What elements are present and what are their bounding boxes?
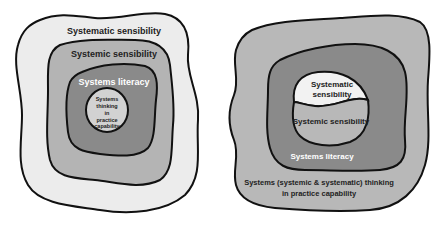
right-label-capability-line-2: in practice capability	[282, 189, 357, 198]
left-label-systematic-sensibility: Systematic sensibility	[67, 26, 161, 36]
diagram-canvas: Systematic sensibility Systemic sensibil…	[0, 0, 443, 225]
right-label-systematic-line-2: sensibility	[312, 90, 352, 99]
right-label-capability-line-1: Systems (systemic & systematic) thinking	[244, 178, 394, 187]
left-diagram: Systematic sensibility Systemic sensibil…	[16, 13, 198, 212]
left-core-line-1: Systems	[96, 96, 119, 102]
right-label-systemic-sensibility: Systemic sensibility	[293, 117, 370, 126]
right-label-systematic-line-1: Systematic	[311, 80, 354, 89]
left-core-line-2: thinking	[96, 103, 117, 109]
right-diagram: Systematic sensibility Systemic sensibil…	[230, 16, 430, 211]
right-label-systems-literacy: Systems literacy	[290, 152, 354, 161]
left-core-line-3: in	[105, 110, 111, 116]
left-core-line-5: capability	[94, 123, 120, 129]
left-label-systems-literacy: Systems literacy	[78, 77, 149, 87]
left-label-systemic-sensibility: Systemic sensibility	[71, 49, 157, 59]
